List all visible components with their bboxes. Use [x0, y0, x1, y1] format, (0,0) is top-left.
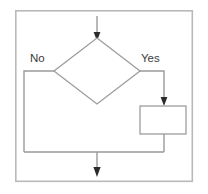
process-box [140, 106, 186, 134]
branch-label-no: No [30, 52, 45, 64]
flowchart-diagram: No Yes [0, 0, 208, 194]
branch-label-yes: Yes [141, 52, 160, 64]
